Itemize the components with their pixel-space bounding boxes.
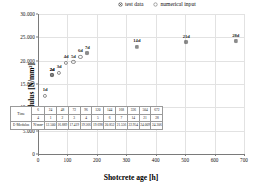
plot-area: 010020030040050060070005.00010.00015.000… [38,14,244,154]
table-row: Time624487296120144168336504672 [11,107,163,115]
table-cell: 21.556 [116,122,128,130]
table-cell: 7 [116,114,128,122]
y-tick-label: 0 [32,151,35,157]
x-tick-label: 0 [37,157,40,163]
table-cell: 48 [56,107,68,115]
gridline-horizontal [38,37,244,38]
data-point [135,45,140,50]
circle-cross-icon [233,39,238,44]
circle-cross-icon [50,73,55,78]
open-circle-icon [64,61,68,65]
open-circle-icon [78,55,82,59]
data-point [57,71,61,75]
data-point-label: 4d [64,54,69,59]
table-cell: 6 [104,114,116,122]
table-cell: 17.419 [68,122,80,130]
table-cell: 19.698 [92,122,104,130]
data-point [50,73,55,78]
gridline-horizontal [38,131,244,132]
data-point [71,60,75,64]
legend-item-numerical-input: numerical input [153,1,195,7]
table-cell: 4 [32,114,45,122]
table-cell: 1 [45,114,57,122]
table-cell: 96 [80,107,92,115]
table-cell: 14 [127,114,139,122]
table-cell: 4 [80,114,92,122]
data-point-label: 7d [85,45,90,50]
table-cell: 336 [127,107,139,115]
x-tick-label: 300 [122,157,130,163]
open-circle-icon [71,60,75,64]
gridline-horizontal [38,61,244,62]
gridline-horizontal [38,84,244,85]
table-cell: 16.889 [56,122,68,130]
data-point [78,55,82,59]
table-cell: 20.852 [104,122,116,130]
legend-item-test-data: test data [118,1,143,7]
circle-cross-icon [135,45,140,50]
table-cell: 28 [151,114,163,122]
data-point [43,94,47,98]
table-cell: 672 [151,107,163,115]
table-cell: 504 [139,107,151,115]
table-cell: 12.500 [45,122,57,130]
legend-label-numerical-input: numerical input [160,1,195,7]
y-axis-line [38,14,39,154]
gridline-vertical [244,14,245,154]
x-tick-label: 200 [93,157,101,163]
table-cell: 24 [45,107,57,115]
x-tick-mark [244,154,245,156]
legend-label-test-data: test data [125,1,143,7]
data-point [233,39,238,44]
data-point-label: 2d [50,67,55,72]
table-cell: E-Modulus [11,122,32,130]
data-point-label: 6d [78,48,83,53]
chart-legend: test data numerical input [118,1,196,7]
open-circle-icon [57,71,61,75]
x-tick-label: 600 [211,157,219,163]
y-tick-label: 20.000 [20,58,35,64]
table-cell: 5 [92,114,104,122]
data-point-label: 3d [57,64,62,69]
circle-cross-icon [85,51,90,56]
data-table: Time624487296120144168336504672412345671… [10,106,163,130]
data-point [85,51,90,56]
table-cell: 19.566 [80,122,92,130]
table-cell: 6 [32,107,45,115]
table-cell: 21 [139,114,151,122]
table-cell: 3 [68,114,80,122]
table-cell: 168 [116,107,128,115]
table-cell: 24.206 [151,122,163,130]
table-row: E-ModulusN/mm²12.50016.88917.41919.56619… [11,122,163,130]
data-point-label: 5d [71,54,76,59]
data-point [184,40,189,45]
y-tick-label: 30.000 [20,11,35,17]
open-circle-icon [43,94,47,98]
circle-cross-icon [118,2,123,7]
data-point-label: 21d [183,34,190,39]
table-cell: 24.009 [139,122,151,130]
table-cell: 22.954 [127,122,139,130]
x-tick-label: 100 [64,157,72,163]
data-point [64,61,68,65]
table-cell: 2 [56,114,68,122]
data-point-label: 14d [133,38,140,43]
x-tick-label: 500 [181,157,189,163]
table-cell: Time [11,107,32,122]
x-tick-label: 400 [152,157,160,163]
x-axis-line [38,154,244,155]
y-tick-label: 25.000 [20,34,35,40]
x-axis-label: Shotcrete age [h] [0,173,262,182]
gridline-horizontal [38,14,244,15]
chart-root: test data numerical input E-Modulus [N/m… [0,0,262,190]
circle-cross-icon [184,40,189,45]
table-cell: 120 [92,107,104,115]
table-cell: 144 [104,107,116,115]
open-circle-icon [153,2,158,7]
table-cell: 72 [68,107,80,115]
data-point-label: 1d [43,87,48,92]
table-row: 41234567142128 [11,114,163,122]
x-tick-label: 700 [240,157,248,163]
data-point-label: 28d [232,33,239,38]
table-cell: N/mm² [32,122,45,130]
